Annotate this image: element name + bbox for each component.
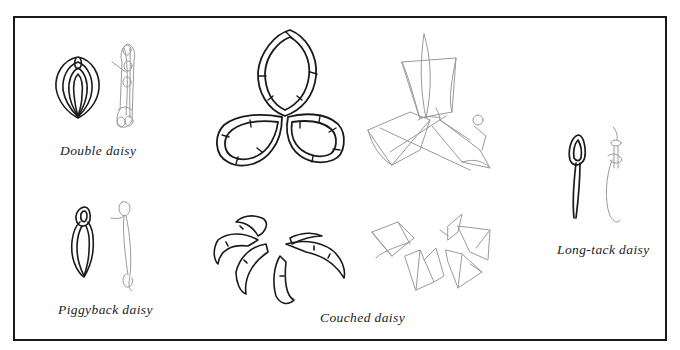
double-daisy-stitch-icon [56,57,99,118]
three-petal-daisy-working-diagram-icon [368,34,490,170]
stitch-illustrations [0,0,680,350]
caption-long-tack-daisy: Long-tack daisy [557,242,650,258]
double-daisy-working-diagram-icon [112,44,135,127]
three-petal-daisy-stitch-icon [217,30,344,166]
caption-couched-daisy: Couched daisy [320,310,405,326]
piggyback-daisy-working-diagram-icon [111,202,133,291]
piggyback-daisy-stitch-icon [72,207,93,277]
couched-daisy-stitch-icon [214,216,344,304]
caption-piggyback-daisy: Piggyback daisy [58,302,153,318]
couched-daisy-working-diagram-icon [372,214,490,290]
long-tack-daisy-stitch-icon [569,135,585,218]
long-tack-daisy-working-diagram-icon [606,127,622,222]
caption-double-daisy: Double daisy [60,143,136,159]
